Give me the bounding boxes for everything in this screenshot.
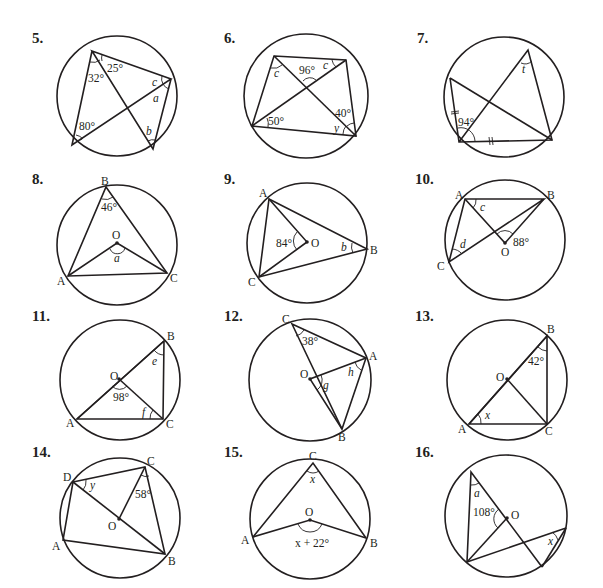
angle-arc [102,197,113,200]
quadrilateral [63,467,165,554]
tick-mark [451,113,459,114]
angle-variable: d [460,238,466,250]
vertex-label: C [309,450,317,462]
vertex-label: A [57,275,66,287]
angle-label: 32° [88,72,105,84]
vertex-label: A [66,417,75,429]
angle-arc [347,123,354,126]
vertex-label: A [458,423,467,435]
angle-label: 42° [528,355,545,367]
angle-arc [352,243,353,253]
center-point [117,517,121,521]
angle-arc [163,84,169,89]
diagram-problem-6: c 96° c 50° 40° y [244,34,368,158]
vertex-label: D [63,471,71,483]
diagram-problem-15: C x O x + 22° A B [241,450,378,579]
diagram-problem-13: B 42° O x A C [447,320,567,440]
vertex-label: O [511,509,519,521]
angle-variable: a [474,487,480,499]
angle-arc [343,126,346,134]
vertex-label: B [547,323,555,335]
angle-arc [538,347,547,351]
vertex-label: C [248,276,256,288]
center-point [505,516,509,520]
angle-label: 84° [276,237,293,249]
vertex-label: B [338,431,346,443]
angle-label: 96° [299,64,316,76]
angle-variable: t [522,63,526,75]
angle-variable: y [89,479,96,492]
vertex-label: O [110,370,118,382]
diagram-problem-16: a 108° O x [445,455,567,577]
vertex-label: B [101,175,109,187]
angle-variable: g [323,379,329,392]
vertex-label: A [241,534,250,546]
angle-variable: e [152,355,157,367]
angle-variable: y [333,122,340,135]
diagram-problem-12: C 38° A h O g B [249,313,378,443]
angle-arc [293,232,297,250]
vertex-label: O [501,246,509,258]
radius [507,379,547,424]
vertex-label: B [370,537,378,549]
angle-variable: h [348,366,354,378]
vertex-label: A [259,187,268,199]
vertex-label: C [147,455,155,467]
angle-variable: a [153,92,159,104]
angle-arc [303,78,316,81]
angle-variable: c [152,76,157,88]
diagram-problem-10: A c B 88° O d C [437,180,565,300]
angle-label: 50° [268,115,285,127]
vertex-label: O [300,368,308,380]
vertex-label: O [311,237,319,249]
angle-arc [332,60,336,67]
diagrams-canvas: 32° 25° 80° c a b c 96° c 50° 40° y t [0,0,603,588]
vertex-label: C [437,260,445,272]
angle-arc [473,199,476,208]
circle [445,455,567,577]
angle-arc [76,135,83,139]
vertex-label: C [545,425,553,437]
diagram-problem-5: 32° 25° 80° c a b [57,36,177,156]
center-point [503,241,507,245]
center-point [308,377,312,381]
diagram-problem-7: t 94° [444,37,564,157]
vertex-label: A [52,540,61,552]
vertex-label: A [369,350,378,362]
vertex-label: C [282,313,290,325]
diagram-problem-9: A 84° O b B C [247,183,378,303]
angle-variable: c [480,201,485,213]
angle-expression: x + 22° [295,537,329,549]
angle-variable: x [484,409,491,421]
tick-mark [492,137,493,145]
center-point [308,518,312,522]
tick-mark [451,111,459,112]
tick-mark [489,137,490,145]
vertex-label: O [496,371,504,383]
circle [244,34,368,158]
angle-label: 46° [101,201,118,213]
vertex-label: B [167,330,175,342]
angle-arc [162,76,163,84]
angle-label: 80° [79,120,96,132]
center-point [505,377,509,381]
angle-arc [497,231,513,234]
angle-label: 98° [113,391,130,403]
angle-variable: f [142,406,147,419]
central-angle-sides [253,520,366,538]
angle-variable: a [114,252,120,264]
central-angle-sides [465,199,544,243]
center-point [305,240,309,244]
center-point [115,241,119,245]
diagram-problem-8: B 46° O a A C [57,175,178,305]
angle-label: 25° [107,62,124,74]
angle-arc [355,362,361,370]
diagram-problem-14: D y C 58° O A B [52,455,180,578]
circle [57,36,177,156]
angle-variable: b [341,241,347,253]
vertex-label: B [547,189,555,201]
angle-variable: c [274,67,279,79]
angle-label: 88° [513,236,530,248]
angle-arc [150,410,153,419]
vertex-label: O [108,520,116,532]
